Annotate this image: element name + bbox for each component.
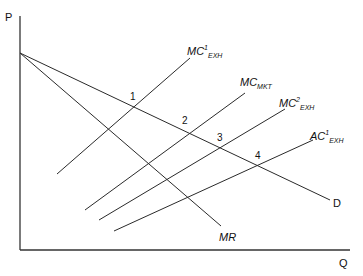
mc2-exh-sub: EXH [300, 104, 314, 111]
mr-label: MR [219, 232, 236, 243]
mc1-exh-label: MC1EXH [187, 44, 222, 59]
point-1-label: 1 [130, 92, 136, 102]
mc2-exh-sup: 2 [296, 96, 300, 103]
y-axis-label: P [5, 12, 12, 23]
mc1-exh-sub: EXH [208, 52, 222, 59]
mc-mkt-main: MC [240, 76, 257, 88]
mc1-exh-curve [57, 58, 190, 174]
mc-mkt-curve [85, 93, 245, 210]
demand-curve [20, 53, 330, 200]
mc1-exh-sup: 1 [204, 44, 208, 51]
mc-mkt-label: MCMKT [240, 77, 272, 90]
mc-mkt-sub: MKT [257, 83, 272, 90]
point-2-label: 2 [182, 116, 188, 126]
point-3-label: 3 [217, 133, 223, 143]
ac1-exh-sub: EXH [329, 137, 343, 144]
ac1-exh-main: AC [310, 130, 325, 142]
mc1-exh-main: MC [187, 45, 204, 57]
mc2-exh-curve [99, 109, 285, 220]
ac1-exh-sup: 1 [325, 129, 329, 136]
mc2-exh-label: MC2EXH [279, 96, 314, 111]
demand-label: D [333, 198, 341, 209]
point-4-label: 4 [255, 151, 261, 161]
ac1-exh-label: AC1EXH [310, 129, 344, 144]
x-axis-label: Q [339, 258, 348, 269]
mc2-exh-main: MC [279, 97, 296, 109]
marginal-revenue-curve [20, 53, 221, 226]
ac1-exh-curve [114, 140, 313, 231]
diagram-canvas [0, 0, 363, 276]
